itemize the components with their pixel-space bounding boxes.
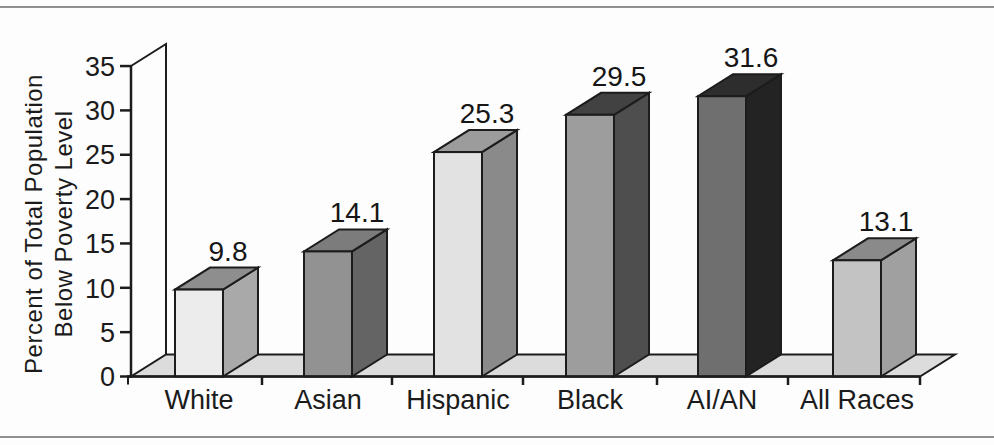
y-axis-title-line-2: Below Poverty Level [50,111,77,338]
y-axis-tick-label: 20 [85,185,115,215]
bar-front-face [566,115,614,377]
scanned-figure-page: 05101520253035 9.8White14.1Asian25.3Hisp… [0,0,994,445]
x-axis [127,377,920,386]
bar-front-face [833,260,881,376]
bar-front-face [175,290,223,377]
wall-edge [131,44,166,355]
chart-back-wall [131,44,166,355]
bar-hispanic [434,130,517,376]
x-axis-category-label: Asian [294,385,362,415]
y-axis-tick-label: 15 [85,229,115,259]
bar-value-label: 31.6 [724,42,779,73]
y-axis: 05101520253035 [85,52,131,392]
chart-bars [175,74,916,376]
y-axis-title-line-1: Percent of Total Population [20,74,47,374]
bar-white [175,268,258,377]
bar-front-face [434,152,482,376]
bar-ai-an [698,74,781,376]
bar-all-races [833,238,916,376]
bar-value-label: 25.3 [460,98,515,129]
x-axis-category-label: AI/AN [687,385,758,415]
y-axis-tick-label: 25 [85,140,115,170]
bar-side-face [746,74,781,376]
bar-value-label: 9.8 [209,236,248,267]
bar-value-label: 13.1 [859,206,914,237]
x-axis-category-label: All Races [800,385,914,415]
bar-value-label: 29.5 [592,61,647,92]
y-axis-tick-label: 5 [100,318,115,348]
y-axis-tick-label: 0 [100,362,115,392]
x-axis-category-label: Black [557,385,624,415]
bar-value-label: 14.1 [330,197,385,228]
bar-asian [304,229,387,376]
bar-front-face [698,96,746,376]
bar-side-face [881,238,916,376]
y-axis-tick-label: 30 [85,96,115,126]
y-axis-tick-label: 35 [85,52,115,82]
bar-side-face [614,93,649,377]
x-axis-category-label: Hispanic [406,385,510,415]
poverty-bar-chart: 05101520253035 9.8White14.1Asian25.3Hisp… [0,0,994,445]
bar-side-face [482,130,517,376]
bar-side-face [352,229,387,376]
bar-black [566,93,649,377]
bar-front-face [304,251,352,376]
y-axis-tick-label: 10 [85,274,115,304]
x-axis-category-label: White [164,385,233,415]
